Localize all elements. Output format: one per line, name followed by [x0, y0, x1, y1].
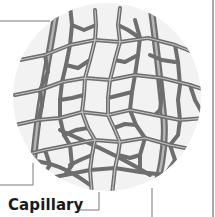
capillary-label: Capillary	[8, 196, 84, 214]
capillary-diagram: Capillary	[0, 0, 215, 217]
capillary-network-illustration	[0, 0, 215, 217]
leader-line-lower-left	[0, 163, 33, 185]
